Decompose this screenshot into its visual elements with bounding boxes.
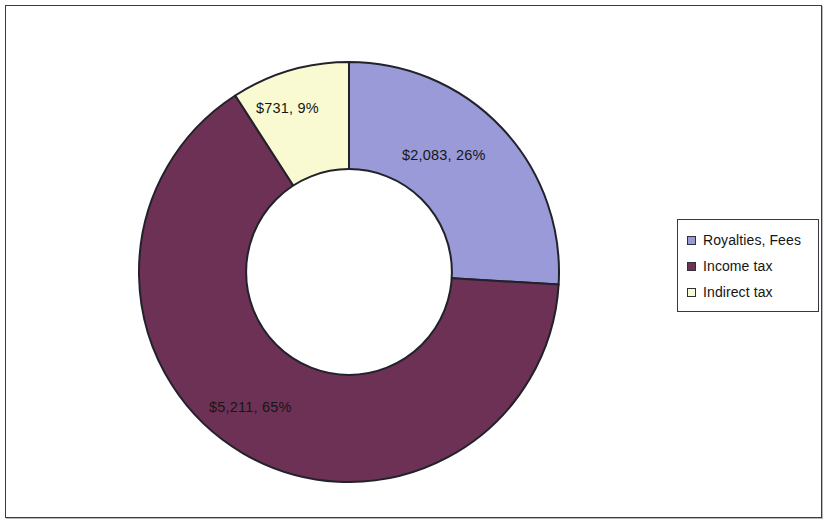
legend-label-income-tax: Income tax bbox=[703, 258, 772, 274]
legend-label-indirect-tax: Indirect tax bbox=[703, 284, 773, 300]
legend-item-royalties-fees[interactable]: Royalties, Fees bbox=[687, 227, 818, 253]
legend-swatch-icon-income-tax bbox=[687, 262, 696, 271]
legend-swatch-icon-indirect-tax bbox=[687, 288, 696, 297]
legend-swatch-icon-royalties-fees bbox=[687, 236, 696, 245]
data-label-royalties-fees: $2,083, 26% bbox=[402, 147, 486, 163]
legend-item-income-tax[interactable]: Income tax bbox=[687, 253, 818, 279]
donut-chart bbox=[134, 46, 564, 498]
data-label-indirect-tax: $731, 9% bbox=[256, 100, 319, 116]
chart-frame: $2,083, 26% $5,211, 65% $731, 9% Royalti… bbox=[5, 5, 822, 518]
plot-area: $2,083, 26% $5,211, 65% $731, 9% Royalti… bbox=[6, 6, 821, 517]
data-label-income-tax: $5,211, 65% bbox=[209, 399, 292, 415]
legend-label-royalties-fees: Royalties, Fees bbox=[703, 232, 801, 248]
legend-item-indirect-tax[interactable]: Indirect tax bbox=[687, 279, 818, 305]
donut-hole bbox=[246, 169, 452, 375]
legend: Royalties, Fees Income tax Indirect tax bbox=[677, 219, 819, 312]
